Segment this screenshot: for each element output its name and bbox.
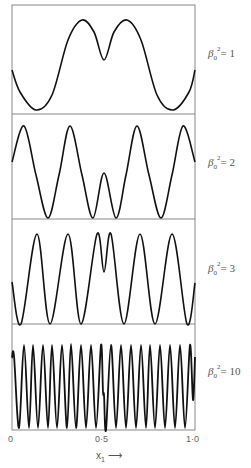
label-superscript: 2 bbox=[217, 260, 221, 268]
label-value: = 3 bbox=[220, 262, 234, 274]
panel-label-3: β02= 3 bbox=[208, 261, 235, 277]
label-subscript: 0 bbox=[213, 372, 217, 380]
label-value: = 10 bbox=[220, 365, 240, 377]
x-tick-0-5: 0·5 bbox=[95, 434, 108, 444]
label-subscript: 0 bbox=[213, 269, 217, 277]
panel-label-2: β02= 2 bbox=[208, 155, 235, 171]
curve-panel-4 bbox=[12, 344, 195, 431]
chart-plot-area bbox=[0, 0, 251, 468]
label-subscript: 0 bbox=[213, 54, 217, 62]
label-superscript: 2 bbox=[217, 363, 221, 371]
label-subscript: 0 bbox=[213, 163, 217, 171]
curve-panel-3 bbox=[12, 233, 195, 325]
label-superscript: 2 bbox=[217, 45, 221, 53]
curves-group bbox=[12, 20, 195, 431]
arrow-right-icon: ⟶ bbox=[108, 450, 122, 461]
label-value: = 2 bbox=[220, 156, 234, 168]
label-value: = 1 bbox=[220, 47, 234, 59]
x-axis-label-subscript: 1 bbox=[101, 456, 105, 463]
x-tick-0: 0 bbox=[8, 434, 13, 444]
x-axis-label: x1 ⟶ bbox=[96, 450, 122, 463]
curve-panel-1 bbox=[12, 20, 195, 110]
x-tick-1-0: 1·0 bbox=[186, 434, 199, 444]
panel-label-4: β02= 10 bbox=[208, 364, 240, 380]
label-superscript: 2 bbox=[217, 154, 221, 162]
panel-label-1: β02= 1 bbox=[208, 46, 235, 62]
curve-panel-2 bbox=[12, 126, 195, 218]
